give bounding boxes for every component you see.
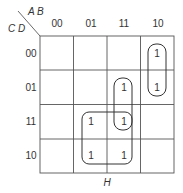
cell-r0-c3: 1 bbox=[154, 48, 160, 59]
row-header-11: 11 bbox=[26, 116, 37, 127]
col-header-11: 11 bbox=[119, 18, 130, 29]
cell-r1-c3: 1 bbox=[154, 82, 160, 93]
col-var-label: A B bbox=[27, 6, 44, 17]
row-header-00: 00 bbox=[25, 48, 37, 59]
cell-r2-c2: 1 bbox=[121, 116, 127, 127]
cell-r1-c2: 1 bbox=[121, 82, 127, 93]
bottom-label-h: H bbox=[103, 177, 111, 188]
row-header-10: 10 bbox=[25, 150, 37, 161]
row-header-01: 01 bbox=[25, 82, 37, 93]
col-header-01: 01 bbox=[85, 18, 97, 29]
col-header-00: 00 bbox=[51, 18, 63, 29]
cell-r3-c1: 1 bbox=[88, 150, 94, 161]
cell-r2-c1: 1 bbox=[88, 116, 94, 127]
karnaugh-map: A B C D 00 01 11 10 00 01 11 10 1 1 1 1 … bbox=[0, 0, 183, 193]
cell-r3-c2: 1 bbox=[121, 150, 127, 161]
col-header-10: 10 bbox=[152, 18, 164, 29]
row-var-label: C D bbox=[8, 23, 25, 34]
